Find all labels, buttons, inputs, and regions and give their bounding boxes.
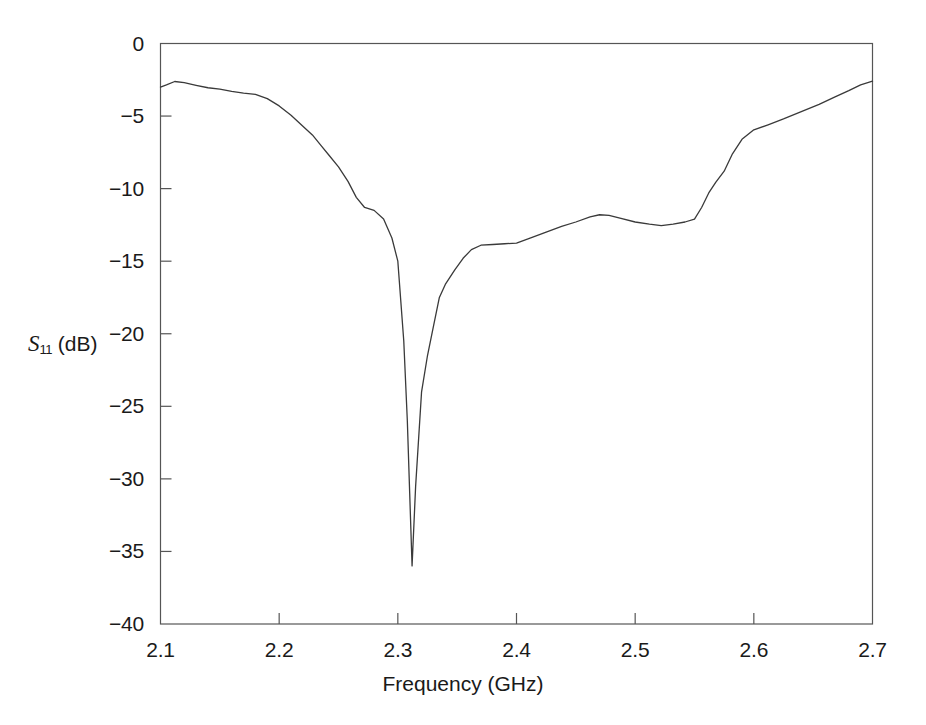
chart-figure: 0−5−10−15−20−25−30−35−40 2.12.22.32.42.5… (0, 0, 926, 725)
x-tick-label: 2.7 (858, 638, 887, 662)
x-tick-label: 2.6 (740, 638, 769, 662)
y-tick-label: −30 (82, 467, 144, 491)
y-tick-label: −15 (82, 249, 144, 273)
x-tick-label: 2.1 (146, 638, 175, 662)
x-tick-label: 2.5 (621, 638, 650, 662)
y-axis-label: S11 (dB) (28, 331, 98, 357)
y-axis-label-subscript: 11 (40, 342, 53, 357)
y-tick-label: −5 (82, 104, 144, 128)
x-axis-label: Frequency (GHz) (0, 672, 926, 696)
y-tick-label: −10 (82, 177, 144, 201)
y-tick-label: −35 (82, 539, 144, 563)
y-tick-label: 0 (82, 32, 144, 56)
x-tick-label: 2.4 (502, 638, 531, 662)
y-axis-label-unit: (dB) (58, 332, 98, 355)
y-tick-label: −40 (82, 612, 144, 636)
y-axis-label-symbol: S (28, 331, 40, 356)
y-tick-label: −25 (82, 394, 144, 418)
x-tick-label: 2.3 (384, 638, 413, 662)
x-tick-label: 2.2 (265, 638, 294, 662)
